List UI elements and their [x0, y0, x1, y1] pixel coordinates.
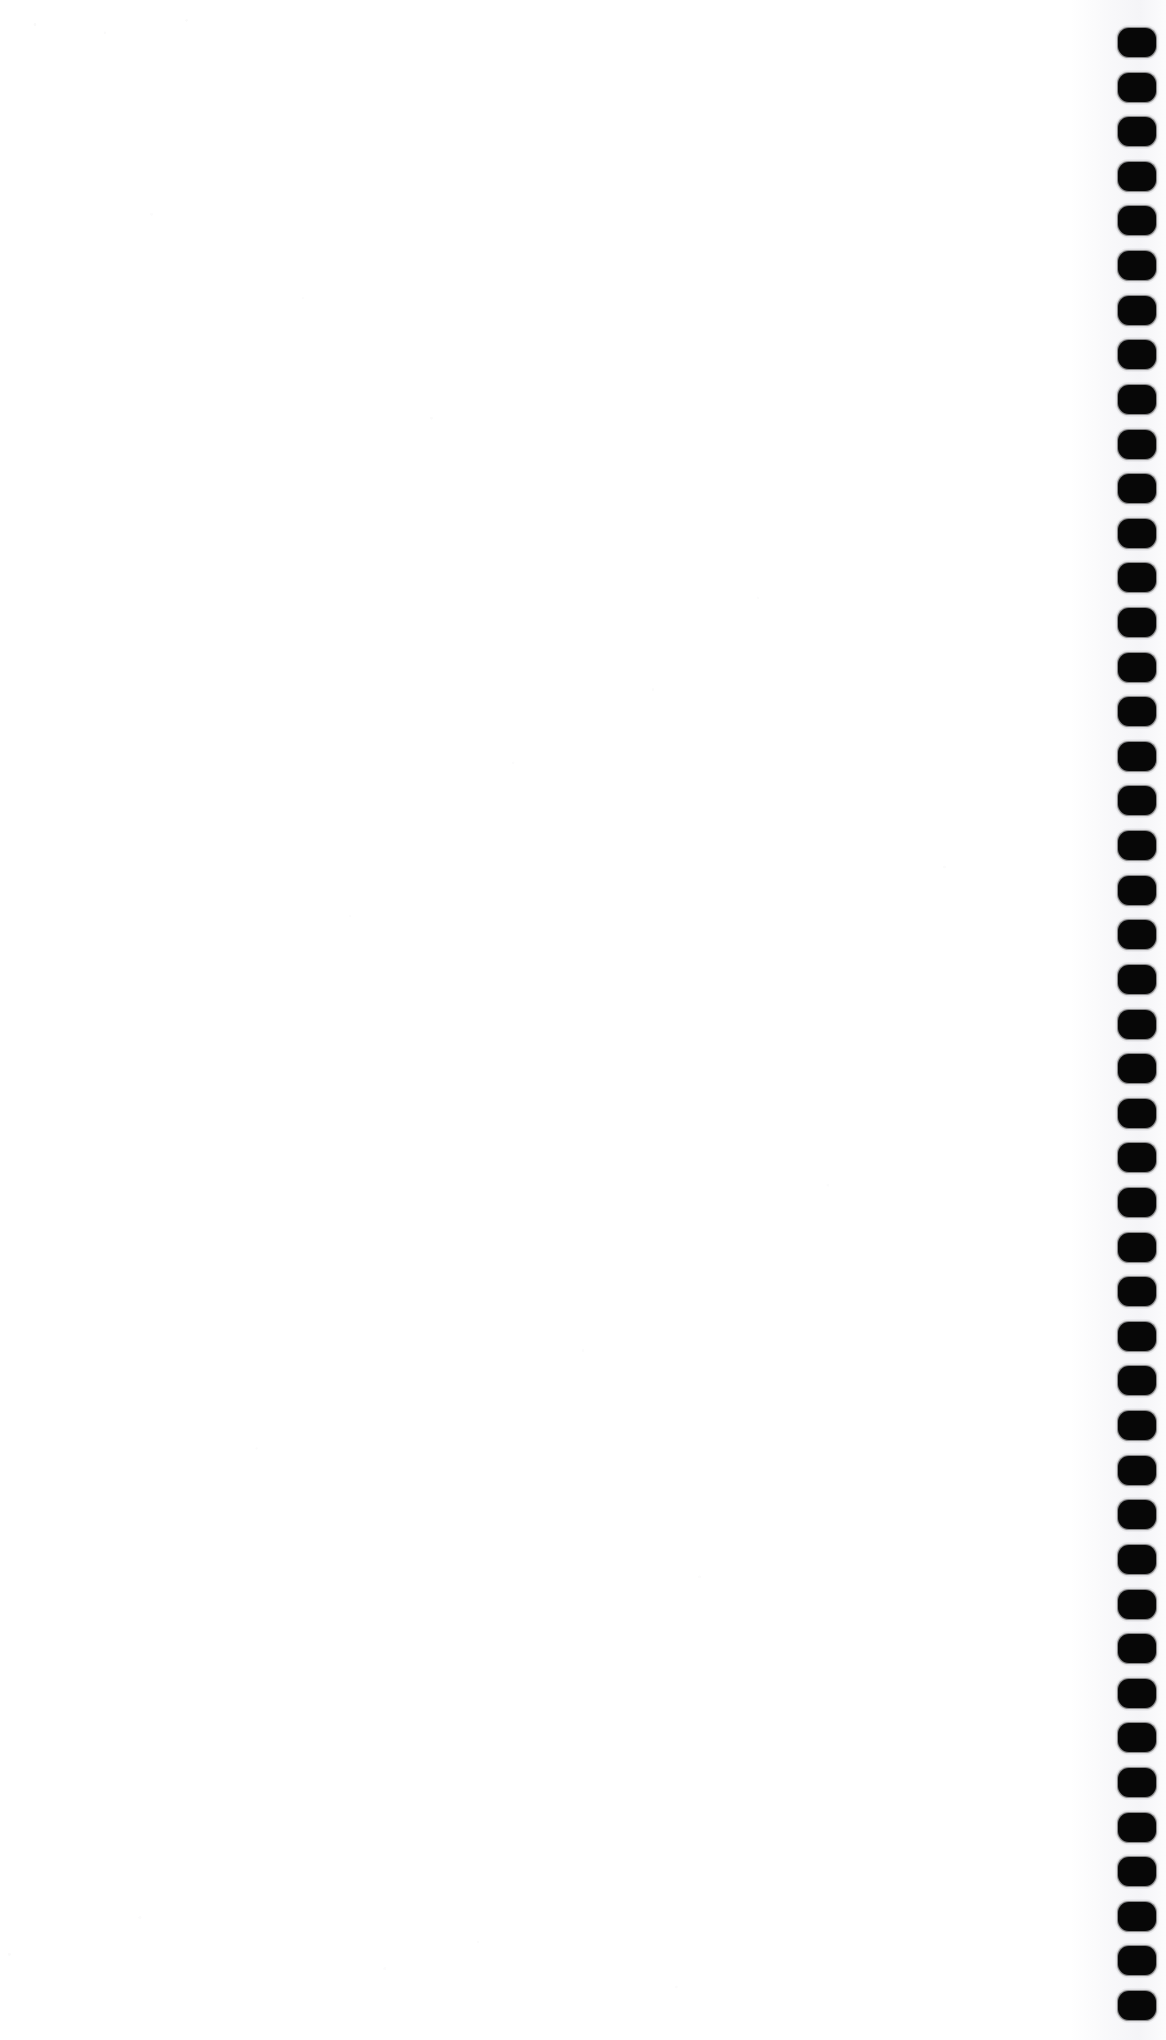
scanned-page	[0, 0, 1166, 2040]
paper-surface	[0, 0, 1166, 2040]
